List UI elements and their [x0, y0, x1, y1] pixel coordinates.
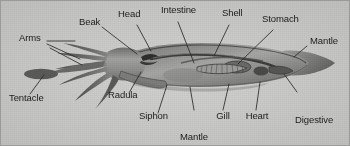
label-digestive-gland-line1: Digestive	[295, 115, 333, 126]
label-shell: Shell	[222, 8, 243, 19]
label-mantle: Mantle	[310, 36, 338, 47]
label-intestine: Intestine	[161, 5, 196, 16]
label-arms: Arms	[19, 33, 41, 44]
tentacle-club-pad	[24, 69, 58, 79]
label-mantle-cavity-line1: Mantle	[169, 132, 219, 143]
heart-part	[254, 67, 269, 76]
label-stomach: Stomach	[262, 14, 299, 25]
squid-anatomy-figure: Arms Tentacle Beak Head Intestine Shell …	[0, 0, 350, 146]
label-heart: Heart	[241, 111, 273, 122]
label-beak: Beak	[79, 17, 100, 28]
label-siphon: Siphon	[139, 111, 168, 122]
label-digestive-gland: Digestive gland	[295, 94, 333, 146]
label-tentacle: Tentacle	[9, 93, 44, 104]
mantle-cavity-part	[163, 68, 203, 82]
label-radula: Radula	[108, 90, 138, 101]
label-head: Head	[118, 9, 140, 20]
label-gill: Gill	[210, 111, 236, 122]
